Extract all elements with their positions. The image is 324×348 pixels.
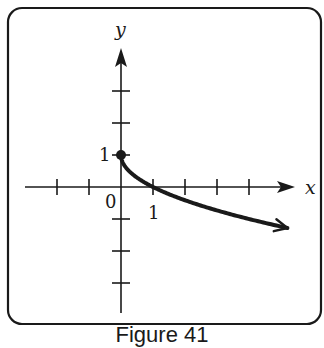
x-axis-label: x xyxy=(305,176,316,198)
x-axis xyxy=(25,179,295,195)
y-axis-label: y xyxy=(114,18,126,40)
graph-frame xyxy=(8,8,321,324)
y-tick-label-1: 1 xyxy=(99,144,110,165)
figure-caption: Figure 41 xyxy=(0,322,324,348)
start-point-dot xyxy=(116,150,126,160)
x-tick-label-1: 1 xyxy=(148,202,159,223)
function-curve xyxy=(121,155,287,228)
origin-label: 0 xyxy=(105,191,116,212)
y-axis xyxy=(112,48,130,313)
